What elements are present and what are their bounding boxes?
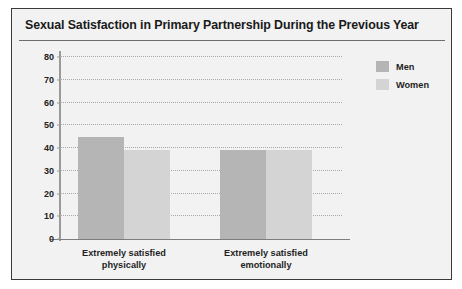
plot-area: 01020304050607080 Extremely satisfiedphy… <box>12 41 451 280</box>
x-axis-category-label-line: Extremely satisfied <box>82 248 166 260</box>
bar-women <box>266 150 312 239</box>
x-axis-category-label-line: emotionally <box>224 260 308 272</box>
chart-legend: MenWomen <box>376 61 429 97</box>
chart-figure: Sexual Satisfaction in Primary Partnersh… <box>0 0 462 289</box>
y-axis-tick-mark <box>57 125 60 126</box>
y-axis-tick-label: 80 <box>44 52 54 62</box>
page-title: Sexual Satisfaction in Primary Partnersh… <box>25 18 419 32</box>
chart-title-bar: Sexual Satisfaction in Primary Partnersh… <box>12 9 451 40</box>
y-axis-tick-label: 50 <box>44 120 54 130</box>
legend-item-label: Women <box>396 80 429 90</box>
y-axis-tick-label: 10 <box>44 211 54 221</box>
legend-swatch-icon <box>376 61 389 72</box>
x-axis-category-label: Extremely satisfiedphysically <box>82 248 166 272</box>
legend-swatch-icon <box>376 79 389 90</box>
y-axis-tick-label: 20 <box>44 189 54 199</box>
y-axis-tick-mark <box>57 148 60 149</box>
y-axis-tick-mark <box>57 239 60 240</box>
legend-item-women[interactable]: Women <box>376 79 429 90</box>
y-axis-tick-mark <box>57 170 60 171</box>
y-axis-tick-mark <box>57 193 60 194</box>
y-axis-tick-label: 40 <box>44 143 54 153</box>
y-axis-tick-mark <box>57 57 60 58</box>
x-axis-category-label: Extremely satisfiedemotionally <box>224 248 308 272</box>
bar-men <box>78 137 124 239</box>
bar-group: Extremely satisfiedphysically <box>78 57 170 239</box>
y-axis-tick-mark <box>57 216 60 217</box>
chart-frame: Sexual Satisfaction in Primary Partnersh… <box>11 8 452 280</box>
bar-women <box>124 150 170 239</box>
y-axis-tick-label: 60 <box>44 98 54 108</box>
x-axis-category-label-line: Extremely satisfied <box>224 248 308 260</box>
y-axis-tick-label: 30 <box>44 166 54 176</box>
y-axis-tick-mark <box>57 79 60 80</box>
chart-axes: 01020304050607080 Extremely satisfiedphy… <box>60 57 342 239</box>
y-axis-tick-mark <box>57 102 60 103</box>
x-axis-category-label-line: physically <box>82 260 166 272</box>
y-axis-tick-label: 0 <box>49 234 54 244</box>
legend-item-men[interactable]: Men <box>376 61 429 72</box>
y-axis-tick-label: 70 <box>44 75 54 85</box>
legend-item-label: Men <box>396 62 414 72</box>
bar-men <box>220 150 266 239</box>
bar-group: Extremely satisfiedemotionally <box>220 57 312 239</box>
